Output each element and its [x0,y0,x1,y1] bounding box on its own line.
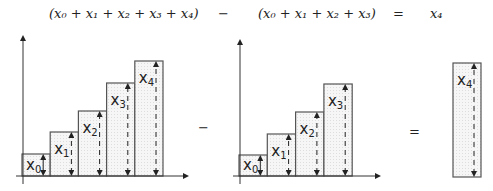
result-bar: x4 [453,63,481,177]
bar-x0: x0 [22,154,50,176]
bar-diagrams: x0x1x2x3x4 x0x1x2x3 x4 [0,0,493,191]
bar-x3: x3 [324,84,352,176]
bar-x3: x3 [107,83,135,176]
bar-x4: x4 [453,63,481,177]
left-bar-chart: x0x1x2x3x4 [16,38,186,184]
bar-x2: x2 [78,111,106,176]
bar-x2: x2 [296,112,324,176]
bar-x0: x0 [239,155,267,176]
middle-bar-chart: x0x1x2x3 [233,42,378,184]
bar-x1: x1 [267,134,295,176]
diagram-stage: (x₀ + x₁ + x₂ + x₃ + x₄) − (x₀ + x₁ + x₂… [0,0,493,191]
bar-x4: x4 [135,61,163,176]
bar-x1: x1 [50,132,78,176]
